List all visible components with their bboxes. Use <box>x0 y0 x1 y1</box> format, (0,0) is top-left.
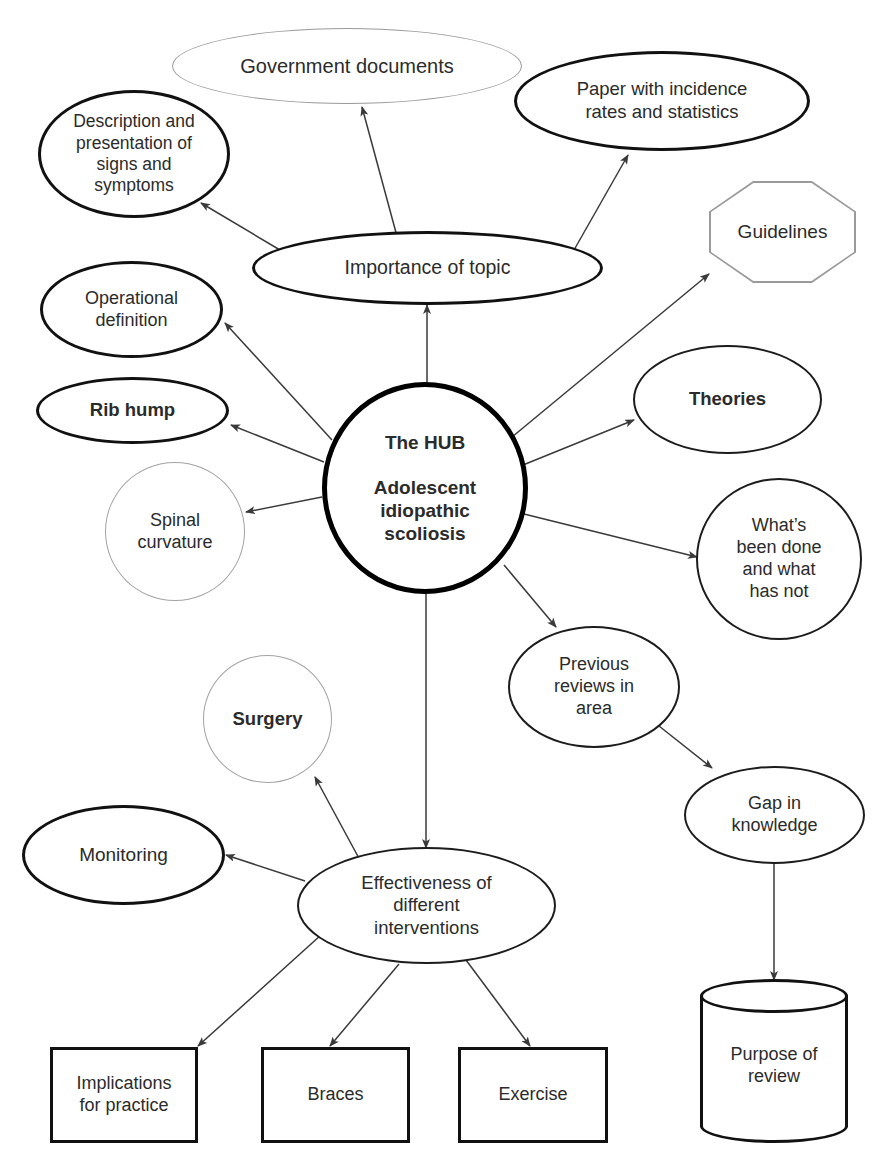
node-gap-in-knowledge[interactable]: Gap in knowledge <box>684 766 865 864</box>
node-hub-title: The HUB <box>385 431 465 454</box>
node-hub[interactable]: The HUB Adolescent idiopathic scoliosis <box>322 382 528 594</box>
node-guidelines[interactable]: Guidelines <box>709 181 856 283</box>
edge-effectiveness-to-implications <box>198 935 321 1046</box>
node-theories[interactable]: Theories <box>633 345 822 454</box>
edge-effectiveness-to-braces <box>330 964 399 1046</box>
edge-importance-to-description <box>201 203 280 250</box>
edge-importance-to-paper <box>574 155 628 250</box>
node-whats-been-done[interactable]: What’s been done and what has not <box>696 478 862 640</box>
edge-hub-to-rib-hump <box>231 425 324 462</box>
edge-hub-to-operational-definition <box>225 323 332 440</box>
edge-previous-reviews-to-gap <box>659 726 712 768</box>
node-monitoring[interactable]: Monitoring <box>22 805 225 905</box>
node-spinal-curvature[interactable]: Spinal curvature <box>105 462 245 601</box>
node-previous-reviews[interactable]: Previous reviews in area <box>508 626 680 748</box>
node-operational-definition[interactable]: Operational definition <box>40 261 223 358</box>
node-purpose-of-review-label: Purpose of review <box>700 1043 848 1087</box>
node-government-documents[interactable]: Government documents <box>172 28 522 104</box>
node-importance-of-topic[interactable]: Importance of topic <box>252 231 603 305</box>
concept-map-canvas: Government documents Description and pre… <box>0 0 895 1163</box>
edge-hub-to-previous-reviews <box>504 565 556 627</box>
node-hub-subtitle: Adolescent idiopathic scoliosis <box>374 476 476 546</box>
edge-effectiveness-to-monitoring <box>226 855 305 881</box>
node-rib-hump[interactable]: Rib hump <box>36 377 229 444</box>
node-implications-for-practice[interactable]: Implications for practice <box>50 1047 198 1143</box>
node-effectiveness-interventions[interactable]: Effectiveness of different interventions <box>297 847 556 964</box>
edge-effectiveness-to-exercise <box>466 960 530 1046</box>
node-purpose-of-review[interactable]: Purpose of review <box>700 979 848 1143</box>
node-braces[interactable]: Braces <box>261 1047 410 1143</box>
cylinder-top <box>700 979 848 1013</box>
edge-effectiveness-to-surgery <box>315 777 361 862</box>
node-paper-incidence-rates[interactable]: Paper with incidence rates and statistic… <box>514 51 810 151</box>
node-description-signs-symptoms[interactable]: Description and presentation of signs an… <box>38 90 230 218</box>
edge-hub-to-whats-been-done <box>524 514 697 557</box>
node-guidelines-label: Guidelines <box>711 183 855 282</box>
node-surgery[interactable]: Surgery <box>203 655 332 783</box>
edge-hub-to-theories <box>523 420 634 465</box>
node-exercise[interactable]: Exercise <box>458 1047 608 1143</box>
edge-importance-to-government-documents <box>362 107 398 240</box>
edge-hub-to-spinal-curvature <box>246 497 322 512</box>
